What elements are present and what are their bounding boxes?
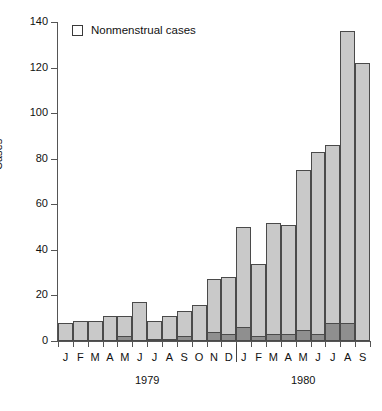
x-axis-tick (370, 342, 371, 347)
x-axis-group-label: 1980 (291, 374, 315, 386)
bar (207, 279, 222, 341)
bar (58, 323, 73, 341)
x-axis-tick (325, 342, 326, 347)
y-axis-tick-label: 40 (0, 244, 48, 255)
bar (132, 302, 147, 341)
x-axis-tick (311, 342, 312, 347)
x-axis-tick (103, 342, 104, 347)
x-axis-tick-label: A (344, 352, 351, 363)
x-axis-tick-label: J (152, 352, 158, 363)
y-axis-tick-label: 0 (0, 335, 48, 346)
x-axis-tick (177, 342, 178, 347)
x-axis-tick (162, 342, 163, 347)
y-axis-tick-label: 60 (0, 198, 48, 209)
x-axis-tick-label: J (241, 352, 247, 363)
x-axis-tick-label: A (166, 352, 173, 363)
bar (177, 311, 192, 341)
bar-segment-menstrual (325, 323, 340, 341)
x-axis-tick-label: F (77, 352, 84, 363)
x-axis-tick (207, 342, 208, 347)
bar-segment-menstrual (311, 334, 326, 341)
bar-segment-menstrual (147, 339, 162, 341)
x-axis-tick (251, 342, 252, 347)
bar-segment-menstrual (281, 334, 296, 341)
y-axis-tick (51, 113, 57, 114)
y-axis-tick (51, 295, 57, 296)
y-axis-tick (51, 341, 57, 342)
bar-segment-menstrual (162, 339, 177, 341)
bars-layer (58, 22, 370, 341)
bar (192, 305, 207, 341)
bar-segment-menstrual (207, 332, 222, 341)
x-axis-tick-label: A (106, 352, 113, 363)
bar (296, 170, 311, 341)
x-axis-tick (73, 342, 74, 347)
x-axis-tick-label: S (181, 352, 188, 363)
x-axis-tick-label: J (63, 352, 69, 363)
x-axis-tick-label: M (91, 352, 100, 363)
y-axis-tick (51, 250, 57, 251)
year-separator (236, 344, 237, 362)
y-axis-tick-label: 140 (0, 16, 48, 27)
x-axis-tick-label: M (299, 352, 308, 363)
bar-segment-menstrual (251, 336, 266, 341)
y-axis-tick-label: 120 (0, 62, 48, 73)
x-axis-tick-label: M (120, 352, 129, 363)
x-axis-tick (192, 342, 193, 347)
x-axis-tick-label: D (225, 352, 233, 363)
bar (221, 277, 236, 341)
y-axis-tick-label: 80 (0, 153, 48, 164)
bar (236, 227, 251, 341)
chart-container: Nonmenstrual cases Cases 020406080100120… (0, 0, 382, 411)
bar (325, 145, 340, 341)
x-axis-tick (296, 342, 297, 347)
y-axis-tick (51, 159, 57, 160)
bar (251, 264, 266, 341)
x-axis-tick (266, 342, 267, 347)
bar (147, 321, 162, 342)
bar-segment-menstrual (340, 323, 355, 341)
x-axis-tick-label: J (315, 352, 321, 363)
bar (266, 223, 281, 341)
bar (103, 316, 118, 341)
x-axis-tick-label: N (210, 352, 218, 363)
bar (117, 316, 132, 341)
y-axis-tick-label: 20 (0, 289, 48, 300)
x-axis-tick-label: M (269, 352, 278, 363)
y-axis-tick (51, 68, 57, 69)
x-axis-tick (58, 342, 59, 347)
bar (73, 321, 88, 342)
bar (311, 152, 326, 341)
bar-segment-menstrual (236, 327, 251, 341)
bar-segment-menstrual (221, 334, 236, 341)
y-axis-tick-label: 100 (0, 107, 48, 118)
x-axis-tick-label: S (359, 352, 366, 363)
x-axis-tick (132, 342, 133, 347)
bar (162, 316, 177, 341)
bar-segment-menstrual (266, 334, 281, 341)
x-axis-line (57, 341, 371, 342)
x-axis-tick-label: F (255, 352, 262, 363)
x-axis-tick (147, 342, 148, 347)
bar (281, 225, 296, 341)
x-axis-tick (88, 342, 89, 347)
x-axis-group-label: 1979 (135, 374, 159, 386)
x-axis-tick (281, 342, 282, 347)
y-axis-tick (51, 204, 57, 205)
x-axis-tick-label: J (137, 352, 143, 363)
x-axis-tick-label: A (285, 352, 292, 363)
bar (355, 63, 370, 341)
bar-segment-menstrual (296, 330, 311, 341)
bar-segment-menstrual (177, 336, 192, 341)
x-axis-tick-label: O (195, 352, 204, 363)
x-axis-tick-label: J (330, 352, 336, 363)
x-axis-tick (221, 342, 222, 347)
bar (340, 31, 355, 341)
x-axis-tick (355, 342, 356, 347)
bar (88, 321, 103, 342)
y-axis-tick (51, 22, 57, 23)
x-axis-tick (340, 342, 341, 347)
x-axis-tick (117, 342, 118, 347)
bar-segment-menstrual (117, 336, 132, 341)
